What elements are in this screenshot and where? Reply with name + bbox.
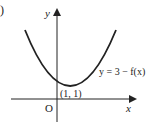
part-marker: ) — [0, 3, 4, 17]
parabola-curve — [25, 30, 116, 86]
origin-label: O — [45, 102, 53, 114]
graph-figure: ) y x O (1, 1) y = 3 − f(x) — [0, 0, 157, 126]
x-axis-label: x — [125, 102, 131, 114]
minimum-point-label: (1, 1) — [60, 88, 82, 100]
curve-equation-label: y = 3 − f(x) — [99, 66, 145, 78]
y-axis-label: y — [44, 7, 50, 19]
